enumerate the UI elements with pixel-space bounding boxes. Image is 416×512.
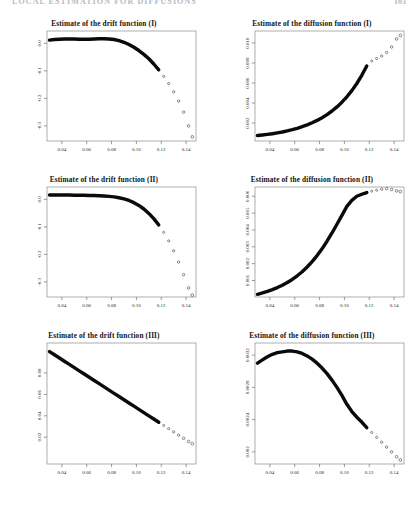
- data-point: [187, 440, 190, 443]
- svg-text:0.002: 0.002: [245, 258, 250, 270]
- svg-text:0.10: 0.10: [132, 470, 141, 475]
- chart-svg: 0.040.060.080.100.120.140.0-0.1-0.2-0.3: [0, 167, 208, 323]
- svg-text:-0.3: -0.3: [37, 121, 42, 129]
- svg-text:-0.3: -0.3: [37, 277, 42, 285]
- panel-drift-3: Estimate of the drift function (III) 0.0…: [0, 323, 208, 490]
- svg-text:-0.2: -0.2: [37, 94, 42, 102]
- data-point: [390, 46, 393, 49]
- data-point: [395, 455, 398, 458]
- svg-text:0.12: 0.12: [157, 303, 166, 308]
- svg-text:0.12: 0.12: [157, 147, 166, 152]
- svg-text:0.002: 0.002: [245, 446, 250, 458]
- running-head: LOCAL ESTIMATION FOR DIFFUSIONS 103: [0, 0, 416, 11]
- plot-area-diffusion-2: 0.040.060.080.100.120.140.0010.0020.0030…: [208, 167, 416, 323]
- data-point: [371, 431, 373, 433]
- panel-diffusion-3: Estimate of the diffusion function (III)…: [208, 323, 416, 490]
- svg-text:0.08: 0.08: [107, 470, 116, 475]
- data-point: [376, 436, 378, 438]
- svg-text:0.04: 0.04: [266, 303, 275, 308]
- svg-text:0.005: 0.005: [245, 207, 250, 219]
- data-curve: [49, 352, 158, 423]
- svg-text:0.08: 0.08: [315, 303, 324, 308]
- data-point: [187, 125, 190, 128]
- data-point: [385, 51, 387, 53]
- data-curve: [257, 351, 366, 428]
- figure-panel-grid: Estimate of the drift function (I) 0.040…: [0, 11, 416, 512]
- plot-area-diffusion-1: 0.040.060.080.100.120.140.0020.0040.0060…: [208, 11, 416, 167]
- chart-svg: 0.040.060.080.100.120.140.020.040.060.08: [0, 323, 208, 490]
- svg-text:0.14: 0.14: [182, 303, 191, 308]
- svg-text:0.12: 0.12: [365, 470, 374, 475]
- svg-text:0.008: 0.008: [245, 57, 250, 69]
- svg-text:0.06: 0.06: [82, 470, 91, 475]
- data-point: [163, 231, 165, 233]
- svg-text:0.04: 0.04: [58, 303, 67, 308]
- svg-text:0.04: 0.04: [266, 147, 275, 152]
- data-point: [163, 75, 165, 77]
- svg-text:0.06: 0.06: [82, 147, 91, 152]
- data-point: [168, 428, 170, 430]
- data-point: [380, 188, 382, 190]
- svg-text:0.0028: 0.0028: [245, 380, 250, 394]
- data-point: [187, 287, 190, 290]
- svg-text:0.08: 0.08: [37, 368, 42, 377]
- svg-text:0.14: 0.14: [390, 470, 399, 475]
- svg-text:0.12: 0.12: [365, 303, 374, 308]
- data-point: [399, 459, 402, 462]
- data-point: [371, 190, 373, 192]
- chart-svg: 0.040.060.080.100.120.140.0020.00240.002…: [208, 323, 416, 490]
- svg-text:0.12: 0.12: [157, 470, 166, 475]
- panel-diffusion-2: Estimate of the diffusion function (II) …: [208, 167, 416, 323]
- svg-text:0.002: 0.002: [245, 117, 250, 129]
- svg-text:-0.2: -0.2: [37, 250, 42, 258]
- data-point: [168, 240, 170, 242]
- svg-text:0.04: 0.04: [58, 470, 67, 475]
- data-point: [385, 446, 387, 448]
- svg-text:0.10: 0.10: [340, 147, 349, 152]
- chart-svg: 0.040.060.080.100.120.140.0010.0020.0030…: [208, 167, 416, 323]
- data-curve: [49, 39, 158, 70]
- svg-text:0.06: 0.06: [290, 147, 299, 152]
- data-point: [399, 190, 402, 193]
- plot-area-diffusion-3: 0.040.060.080.100.120.140.0020.00240.002…: [208, 323, 416, 490]
- data-point: [390, 188, 393, 191]
- svg-text:0.06: 0.06: [290, 303, 299, 308]
- data-point: [376, 189, 378, 191]
- svg-text:0.14: 0.14: [390, 303, 399, 308]
- svg-text:0.0: 0.0: [37, 40, 42, 47]
- chart-svg: 0.040.060.080.100.120.140.0020.0040.0060…: [208, 11, 416, 167]
- svg-text:0.08: 0.08: [107, 303, 116, 308]
- plot-area-drift-2: 0.040.060.080.100.120.140.0-0.1-0.2-0.3: [0, 167, 208, 323]
- svg-text:0.0024: 0.0024: [245, 412, 250, 426]
- panel-drift-1: Estimate of the drift function (I) 0.040…: [0, 11, 208, 167]
- data-curve: [49, 195, 158, 225]
- svg-text:0.0: 0.0: [37, 196, 42, 203]
- svg-text:0.10: 0.10: [132, 303, 141, 308]
- data-point: [177, 100, 179, 102]
- svg-text:0.04: 0.04: [266, 470, 275, 475]
- svg-text:0.04: 0.04: [58, 147, 67, 152]
- data-point: [380, 441, 382, 443]
- svg-text:0.06: 0.06: [290, 470, 299, 475]
- plot-area-drift-3: 0.040.060.080.100.120.140.020.040.060.08: [0, 323, 208, 490]
- data-point: [163, 424, 165, 426]
- data-point: [182, 437, 185, 440]
- data-point: [395, 38, 398, 41]
- data-point: [385, 187, 387, 189]
- data-curve: [257, 66, 366, 136]
- running-head-title: LOCAL ESTIMATION FOR DIFFUSIONS: [12, 0, 197, 6]
- data-point: [172, 431, 174, 433]
- svg-text:-0.1: -0.1: [37, 66, 42, 74]
- data-point: [380, 55, 382, 57]
- data-point: [177, 434, 179, 436]
- data-point: [191, 442, 194, 445]
- svg-text:0.006: 0.006: [245, 190, 250, 202]
- svg-text:0.08: 0.08: [315, 147, 324, 152]
- svg-text:0.10: 0.10: [132, 147, 141, 152]
- data-point: [172, 91, 174, 93]
- svg-text:0.06: 0.06: [37, 390, 42, 399]
- svg-text:0.0032: 0.0032: [245, 348, 250, 362]
- data-point: [371, 60, 373, 62]
- svg-text:0.08: 0.08: [315, 470, 324, 475]
- panel-drift-2: Estimate of the drift function (II) 0.04…: [0, 167, 208, 323]
